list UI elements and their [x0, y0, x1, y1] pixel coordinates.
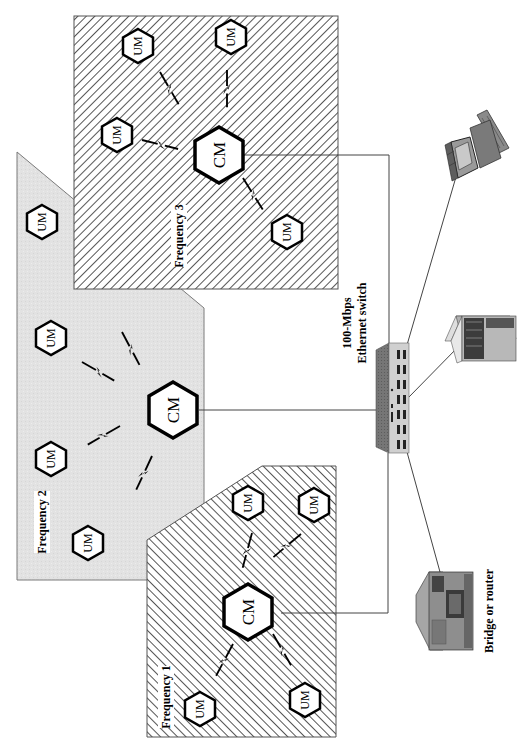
workstation-device[interactable]	[445, 110, 509, 181]
server-icon	[445, 316, 516, 363]
um-node[interactable]: UM	[185, 692, 215, 726]
um-node[interactable]: UM	[36, 442, 66, 476]
um-label: UM	[298, 690, 312, 710]
wire-switch-to-workstation	[407, 170, 458, 345]
svg-text:Bridge or router: Bridge or router	[482, 568, 496, 653]
um-label: UM	[241, 493, 255, 513]
um-node[interactable]: UM	[123, 29, 153, 63]
network-diagram: CM UM UM UM UM CM UM UM UM UM CM	[0, 0, 525, 751]
computer-icon	[445, 110, 509, 181]
cm-label: CM	[210, 142, 229, 168]
router-label: Bridge or router	[482, 568, 496, 653]
svg-text:Frequency 1: Frequency 1	[159, 665, 173, 728]
um-label: UM	[193, 699, 207, 719]
cm-node-frequency-2[interactable]: CM	[149, 382, 197, 438]
um-node[interactable]: UM	[290, 683, 320, 717]
svg-text:Frequency 2: Frequency 2	[35, 490, 49, 553]
cm-node-frequency-1[interactable]: CM	[224, 584, 272, 640]
svg-text:100-Mbps: 100-Mbps	[340, 297, 354, 349]
um-label: UM	[110, 125, 124, 145]
bridge-router-device[interactable]: Bridge or router	[416, 568, 496, 653]
router-icon	[416, 572, 473, 650]
um-node[interactable]: UM	[216, 20, 246, 54]
cm-label: CM	[239, 599, 258, 625]
um-node[interactable]: UM	[272, 215, 302, 249]
um-node[interactable]: UM	[233, 486, 263, 520]
svg-text:Ethernet switch: Ethernet switch	[355, 282, 369, 363]
cm-label: CM	[164, 397, 183, 423]
ethernet-switch[interactable]: 100-Mbps Ethernet switch	[340, 282, 409, 453]
um-label: UM	[81, 533, 95, 553]
um-node[interactable]: UM	[299, 488, 329, 522]
um-node[interactable]: UM	[73, 526, 103, 560]
um-label: UM	[44, 449, 58, 469]
wire-switch-to-server	[408, 345, 460, 398]
um-label: UM	[307, 495, 321, 515]
cm-node-frequency-3[interactable]: CM	[195, 127, 243, 183]
switch-label: 100-Mbps Ethernet switch	[340, 282, 369, 363]
um-label: UM	[280, 222, 294, 242]
um-label: UM	[35, 212, 49, 232]
um-label: UM	[131, 36, 145, 56]
label-frequency-3: Frequency 3	[171, 204, 187, 267]
wire-switch-to-router	[407, 452, 440, 572]
um-node[interactable]: UM	[27, 205, 57, 239]
um-label: UM	[44, 328, 58, 348]
label-frequency-2: Frequency 2	[34, 490, 50, 553]
um-node[interactable]: UM	[36, 321, 66, 355]
server-device[interactable]	[445, 316, 516, 363]
svg-text:Frequency 3: Frequency 3	[172, 204, 186, 267]
label-frequency-1: Frequency 1	[158, 665, 174, 728]
um-node[interactable]: UM	[102, 118, 132, 152]
switch-side	[376, 343, 389, 453]
um-label: UM	[224, 27, 238, 47]
